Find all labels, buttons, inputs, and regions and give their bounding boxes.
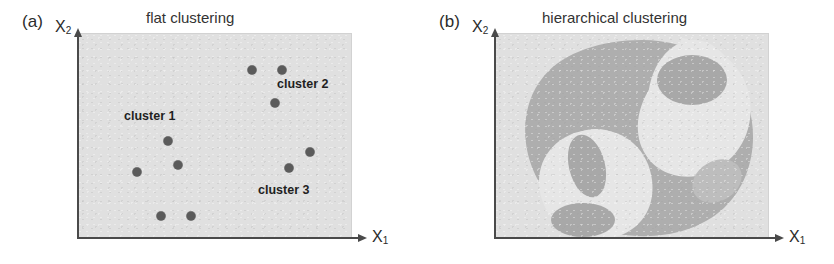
cluster-label-1: cluster 1 [124, 109, 175, 123]
y-axis-label-sub-b: 2 [483, 25, 489, 36]
data-point [174, 161, 183, 170]
data-point [278, 66, 287, 75]
panel-tag-a: (a) [22, 12, 43, 32]
panel-tag-b: (b) [439, 12, 460, 32]
y-axis-label-text-b: X [472, 18, 483, 35]
x-axis-arrow-b [775, 234, 784, 242]
panel-flat-clustering: (a) flat clustering cluster 1 cluster 2 … [0, 0, 417, 264]
x-axis-line-a [77, 237, 358, 239]
y-axis-label-text-a: X [55, 18, 66, 35]
data-point [157, 212, 166, 221]
cluster-label-3: cluster 3 [258, 183, 309, 197]
cluster-label-2: cluster 2 [277, 77, 328, 91]
x-axis-label-sub-a: 1 [383, 235, 389, 246]
leaf-cluster-bottom [551, 203, 615, 237]
x-axis-label-text-a: X [372, 228, 383, 245]
data-point [285, 164, 294, 173]
data-point [248, 66, 257, 75]
x-axis-arrow-a [358, 234, 367, 242]
plot-area-a [78, 33, 352, 239]
y-axis-label-sub-a: 2 [66, 25, 72, 36]
plot-area-b [495, 33, 769, 239]
data-point [187, 212, 196, 221]
y-axis-label-a: X2 [55, 18, 71, 36]
data-point [164, 137, 173, 146]
data-point [271, 99, 280, 108]
x-axis-line-b [494, 237, 775, 239]
y-axis-arrow-b [491, 28, 499, 37]
leaf-cluster-top [657, 55, 727, 105]
panel-hierarchical-clustering: (b) hierarchical clustering [417, 0, 834, 264]
hierarchy-blobs [496, 34, 768, 238]
y-axis-line-a [77, 37, 79, 238]
data-point [306, 148, 315, 157]
y-axis-arrow-a [74, 28, 82, 37]
clustering-figure: (a) flat clustering cluster 1 cluster 2 … [0, 0, 834, 264]
panel-title-a: flat clustering [146, 9, 234, 26]
x-axis-label-b: X1 [789, 228, 805, 246]
x-axis-label-sub-b: 1 [800, 235, 806, 246]
panel-title-b: hierarchical clustering [542, 9, 687, 26]
x-axis-label-a: X1 [372, 228, 388, 246]
x-axis-label-text-b: X [789, 228, 800, 245]
data-point [133, 168, 142, 177]
y-axis-label-b: X2 [472, 18, 488, 36]
y-axis-line-b [494, 37, 496, 238]
